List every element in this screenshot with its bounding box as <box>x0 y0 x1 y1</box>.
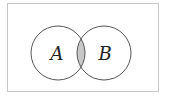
venn-diagram-canvas: A B <box>0 0 169 98</box>
set-b-label: B <box>97 43 111 64</box>
set-a-label: A <box>49 43 64 64</box>
venn-diagram: A B <box>0 0 169 98</box>
